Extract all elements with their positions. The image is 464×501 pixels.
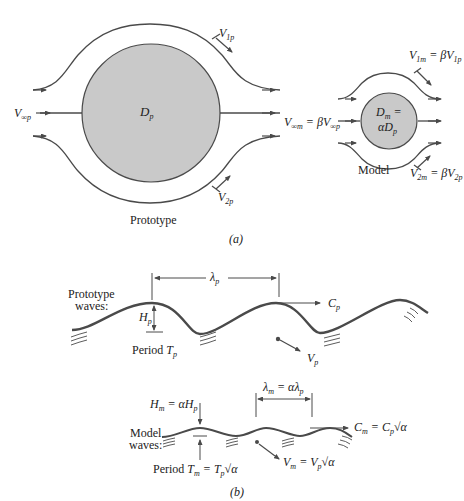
prototype-particle-velocity-label: Vp: [307, 352, 318, 369]
prototype-period-label: Period Tp: [132, 344, 177, 361]
model-v2-label: V2m = βV2p: [410, 167, 463, 184]
model-wavelength-label: λm = αλp: [263, 381, 304, 398]
panel-a-caption: (a): [229, 233, 243, 246]
prototype-wave: [71, 273, 428, 351]
model-freestream-velocity-label: V∞m = βV∞p: [284, 116, 340, 133]
panel-b-caption: (b): [230, 486, 244, 499]
prototype-celerity-label: Cp: [328, 297, 340, 314]
prototype-v1-label: V1p: [219, 27, 234, 44]
prototype-waves-label-line2: waves:: [75, 300, 108, 313]
model-caption-label: Model: [358, 164, 389, 177]
model-diameter-label-line2: αDp: [378, 121, 397, 138]
model-v1-label: V1m = βV1p: [409, 49, 462, 66]
model-celerity-label: Cm = Cp√α: [354, 421, 407, 438]
model-period-label: Period Tm = Tp√α: [153, 463, 237, 480]
prototype-v2-label: V2p: [218, 191, 233, 208]
prototype-freestream-velocity-label: V∞p: [14, 107, 31, 124]
model-waves-label-line2: waves:: [129, 439, 162, 452]
model-wave-height-label: Hm = αHp: [150, 398, 198, 415]
prototype-diameter-label: Dp: [140, 105, 153, 123]
model-particle-velocity-label: Vm = Vp√α: [283, 456, 334, 473]
prototype-wavelength-label: λp: [210, 271, 219, 288]
prototype-wave-height-label: Hp: [139, 311, 152, 328]
prototype-caption-label: Prototype: [130, 214, 177, 227]
